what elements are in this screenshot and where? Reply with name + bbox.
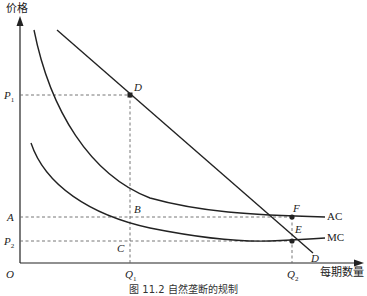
point-b-label: B [134,203,141,215]
axes [17,16,365,267]
y-axis-arrow-icon [17,16,24,26]
mc-curve [31,143,325,241]
ac-label: AC [327,210,342,222]
x-axis-label: 每期数量 [320,265,364,279]
point-d-marker [128,93,133,98]
demand-label: D [310,252,319,264]
ac-curve [34,30,325,217]
a-label: A [6,211,14,223]
point-f-label: F [292,202,300,214]
point-d-label: D [133,81,142,93]
point-c-label: C [117,242,125,254]
p2-label: P2 [3,235,15,250]
origin-label: O [6,268,14,280]
guide-lines [20,95,292,263]
p1-label: P1 [3,89,15,104]
point-e-label: E [294,223,302,235]
y-axis-label: 价格 [6,1,28,15]
demand-curve [57,30,313,253]
point-f-marker [289,214,294,219]
figure-caption: 图 11.2 自然垄断的规制 [0,281,367,296]
mc-label: MC [327,231,344,243]
point-e-marker [289,238,294,243]
